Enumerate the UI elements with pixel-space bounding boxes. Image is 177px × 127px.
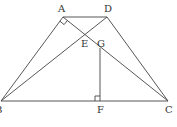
label-a: A: [57, 3, 66, 14]
label-b: B: [0, 104, 2, 115]
label-e: E: [81, 38, 88, 49]
segment-ac: [63, 17, 168, 101]
right-angle-marker-a: [60, 20, 68, 24]
right-angle-marker-f: [95, 96, 100, 101]
label-g: G: [97, 38, 105, 49]
label-d: D: [104, 3, 112, 14]
label-c: C: [165, 104, 173, 115]
label-f: F: [97, 104, 104, 115]
geometry-diagram: A D E G B F C: [0, 0, 177, 127]
